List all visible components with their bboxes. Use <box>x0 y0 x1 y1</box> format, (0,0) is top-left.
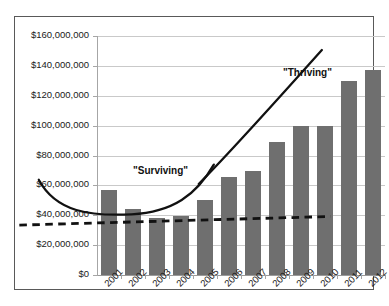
y-axis-label: $120,000,000 <box>15 90 89 100</box>
y-axis-tick <box>93 66 98 67</box>
bar <box>365 70 382 275</box>
chart-frame: $0$20,000,000$40,000,000$60,000,000$80,0… <box>14 16 374 290</box>
y-axis-tick <box>93 275 98 276</box>
bar <box>293 126 310 275</box>
y-axis-label: $80,000,000 <box>15 150 89 160</box>
bar <box>269 142 286 275</box>
surviving-annotation-label: "Surviving" <box>133 165 188 176</box>
bar <box>101 190 118 275</box>
y-axis-label: $60,000,000 <box>15 179 89 189</box>
y-axis-label: $100,000,000 <box>15 120 89 130</box>
y-axis-tick <box>93 96 98 97</box>
y-axis-tick <box>93 185 98 186</box>
bar <box>197 200 214 275</box>
y-axis-tick <box>93 156 98 157</box>
bar <box>317 126 334 275</box>
y-axis-label: $40,000,000 <box>15 209 89 219</box>
bar <box>341 81 358 275</box>
y-axis-label: $0 <box>15 269 89 279</box>
bar <box>125 209 142 275</box>
gridline <box>97 66 385 67</box>
plot-area <box>97 36 385 275</box>
y-axis-label: $20,000,000 <box>15 239 89 249</box>
thriving-annotation-label: "Thriving" <box>283 67 332 78</box>
gridline <box>97 36 385 37</box>
y-axis-tick <box>93 245 98 246</box>
y-axis-tick <box>93 36 98 37</box>
y-axis-tick <box>93 215 98 216</box>
bar <box>221 177 238 275</box>
y-axis-label: $160,000,000 <box>15 30 89 40</box>
bar <box>245 171 262 275</box>
bar <box>173 216 190 275</box>
y-axis-label: $140,000,000 <box>15 60 89 70</box>
y-axis-tick <box>93 126 98 127</box>
